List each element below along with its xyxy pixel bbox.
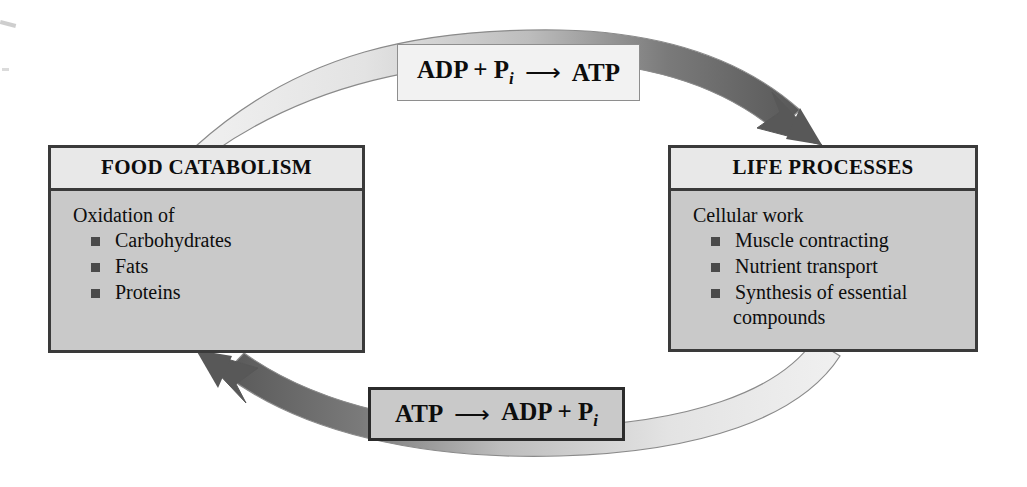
life-processes-header: LIFE PROCESSES (671, 148, 975, 191)
atp-hydrolysis-label: ATP ⟶ ADP + Pi (368, 387, 625, 441)
food-catabolism-box: FOOD CATABOLISM Oxidation of Carbohydrat… (48, 145, 365, 353)
reactant-term: ADP + P (417, 56, 509, 83)
scan-artifact (2, 68, 9, 71)
life-processes-body: Cellular work Muscle contracting Nutrien… (671, 191, 975, 331)
list-item: Fats (91, 254, 362, 280)
reactant-text: ADP + Pi (417, 56, 514, 89)
list-item-label: Carbohydrates (115, 229, 232, 251)
product-text: ADP + Pi (501, 398, 598, 431)
square-bullet-icon (711, 289, 720, 298)
food-catabolism-intro: Oxidation of (73, 204, 362, 226)
square-bullet-icon (91, 263, 100, 272)
square-bullet-icon (711, 263, 720, 272)
list-item-label: Nutrient transport (735, 255, 878, 277)
list-item-label: Fats (115, 255, 148, 277)
diagram-canvas: FOOD CATABOLISM Oxidation of Carbohydrat… (0, 0, 1027, 487)
reactant-term: ATP (395, 400, 443, 428)
reaction-arrow-icon: ⟶ (454, 400, 490, 429)
life-processes-intro: Cellular work (693, 204, 975, 226)
list-item-label: Muscle contracting (735, 229, 889, 251)
food-catabolism-header: FOOD CATABOLISM (51, 148, 362, 191)
list-item: Synthesis of essential compounds (711, 280, 975, 331)
list-item: Muscle contracting (711, 228, 975, 254)
list-item-label: Synthesis of essential (735, 281, 907, 303)
square-bullet-icon (91, 237, 100, 246)
food-catabolism-body: Oxidation of Carbohydrates Fats Proteins (51, 191, 362, 305)
product-term: ADP + P (501, 398, 593, 425)
reaction-arrow-icon: ⟶ (525, 58, 561, 87)
list-item-label: Proteins (115, 281, 181, 303)
square-bullet-icon (711, 237, 720, 246)
square-bullet-icon (91, 289, 100, 298)
list-item: Nutrient transport (711, 254, 975, 280)
list-item-continuation: compounds (733, 305, 975, 331)
list-item: Carbohydrates (91, 228, 362, 254)
atp-synthesis-label: ADP + Pi ⟶ ATP (397, 44, 640, 101)
food-catabolism-list: Carbohydrates Fats Proteins (73, 228, 362, 305)
list-item: Proteins (91, 280, 362, 306)
life-processes-list: Muscle contracting Nutrient transport Sy… (693, 228, 975, 330)
reactant-subscript: i (509, 69, 514, 88)
product-subscript: i (593, 411, 598, 430)
product-term: ATP (572, 59, 620, 87)
life-processes-box: LIFE PROCESSES Cellular work Muscle cont… (668, 145, 978, 352)
